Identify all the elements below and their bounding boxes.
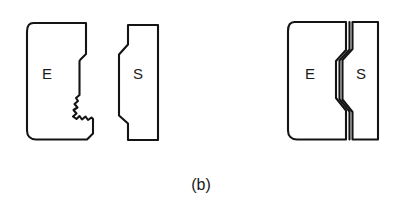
left-part-s-label: S — [133, 65, 143, 82]
figure-caption: (b) — [191, 176, 211, 193]
left-part-e-label: E — [42, 65, 52, 82]
right-part-e-label: E — [305, 65, 315, 82]
right-part-e-outline — [288, 22, 346, 140]
assembled-fracture-halves-group: E S — [288, 22, 378, 140]
figure-container: E S E S (b) — [0, 0, 404, 213]
right-part-s-label: S — [356, 65, 366, 82]
left-part-e-outline — [27, 23, 93, 140]
figure-drawing-canvas: E S E S (b) — [0, 0, 404, 213]
separated-fracture-halves-group: E S — [27, 23, 158, 140]
left-part-s-outline — [119, 25, 158, 140]
